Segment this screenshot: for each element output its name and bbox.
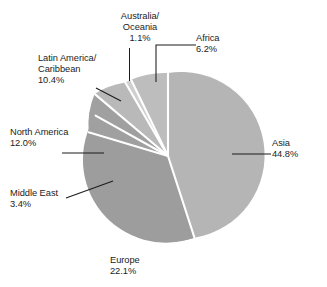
pie-slices: [83, 72, 265, 243]
slice-label-middle-east: Middle East 3.4%: [10, 188, 90, 210]
slice-label-australia-oceania-value: 1.1%: [101, 33, 179, 44]
slice-label-middle-east-value: 3.4%: [10, 199, 90, 210]
slice-label-north-america: North America 12.0%: [10, 127, 92, 149]
slice-label-australia-oceania-line1: Australia/: [101, 11, 179, 22]
slice-label-middle-east-name: Middle East: [10, 188, 90, 199]
slice-label-australia-oceania: Australia/ Oceania 1.1%: [101, 11, 179, 45]
slice-label-europe-value: 22.1%: [110, 266, 182, 277]
slice-label-australia-oceania-line2: Oceania: [101, 22, 179, 33]
slice-label-north-america-value: 12.0%: [10, 138, 92, 149]
slice-label-asia-name: Asia: [272, 138, 324, 149]
slice-label-latin-america-line1: Latin America/: [38, 53, 130, 64]
slice-label-latin-america: Latin America/ Caribbean 10.4%: [38, 53, 130, 87]
slice-label-europe: Europe 22.1%: [110, 255, 182, 277]
pie-chart-figure: Australia/ Oceania 1.1% Africa 6.2% Lati…: [0, 0, 327, 287]
slice-label-africa-name: Africa: [196, 33, 256, 44]
slice-label-asia: Asia 44.8%: [272, 138, 324, 160]
slice-label-africa: Africa 6.2%: [196, 33, 256, 55]
slice-label-latin-america-value: 10.4%: [38, 75, 130, 86]
slice-label-europe-name: Europe: [110, 255, 182, 266]
slice-label-latin-america-line2: Caribbean: [38, 64, 130, 75]
slice-label-north-america-name: North America: [10, 127, 92, 138]
slice-label-africa-value: 6.2%: [196, 44, 256, 55]
slice-label-asia-value: 44.8%: [272, 149, 324, 160]
